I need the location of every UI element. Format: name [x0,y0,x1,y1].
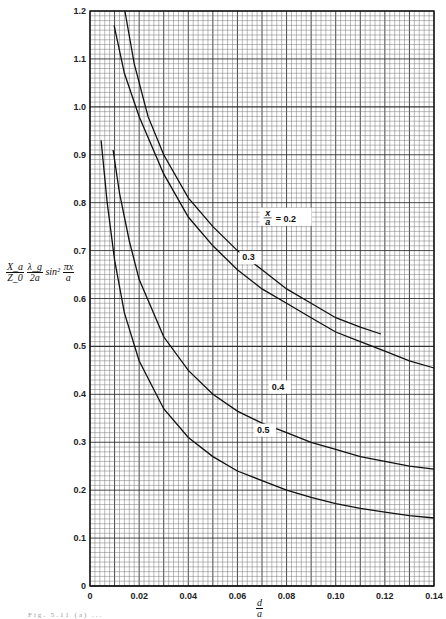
curve-label: 0.4 [269,381,291,394]
ylabel-z0: Z_0 [6,273,24,283]
grid [90,11,434,586]
x-tick-label: 0 [87,591,92,601]
x-tick-label: 0.06 [229,591,247,601]
x-tick-label: 0.10 [327,591,345,601]
y-tick-label: 1.1 [73,54,86,64]
chart-canvas: 00.020.040.060.080.100.120.1400.10.20.30… [0,0,446,619]
y-tick-label: 1.2 [73,6,86,16]
ylabel-a: a [63,273,74,283]
y-tick-label: 0.2 [73,485,86,495]
y-tick-label: 0.9 [73,150,86,160]
ylabel-2a: 2a [27,273,43,283]
ylabel-sin: sin² [45,266,60,277]
x-tick-label: 0.04 [180,591,198,601]
y-axis-label: X_aZ_0 λ_g2a sin² πxa [6,262,74,283]
curve-label: 0.3 [239,251,261,264]
figure-caption: Fig. 5.11 (a) ... [28,611,103,619]
y-tick-label: 0.7 [73,246,86,256]
svg-text:0.5: 0.5 [257,425,270,435]
x-tick-label: 0.12 [376,591,394,601]
y-tick-label: 0.6 [73,294,86,304]
y-tick-label: 0.5 [73,341,86,351]
y-tick-label: 0.3 [73,437,86,447]
y-tick-label: 0.8 [73,198,86,208]
svg-text:a: a [265,217,270,227]
svg-text:= 0.2: = 0.2 [276,214,296,224]
y-tick-label: 0.1 [73,533,86,543]
y-tick-label: 1.0 [73,102,86,112]
curve-label: 0.5 [254,424,276,437]
y-tick-label: 0.4 [73,389,86,399]
svg-text:0.3: 0.3 [242,252,255,262]
x-tick-label: 0.14 [425,591,443,601]
curve-label: xa= 0.2 [260,208,312,227]
xlabel-a: a [256,609,263,619]
x-tick-label: 0.02 [130,591,148,601]
svg-text:0.4: 0.4 [272,382,285,392]
x-tick-label: 0.08 [278,591,296,601]
y-tick-label: 0 [81,581,86,591]
curve-series-2 [114,25,434,368]
x-axis-label: da [256,598,263,619]
